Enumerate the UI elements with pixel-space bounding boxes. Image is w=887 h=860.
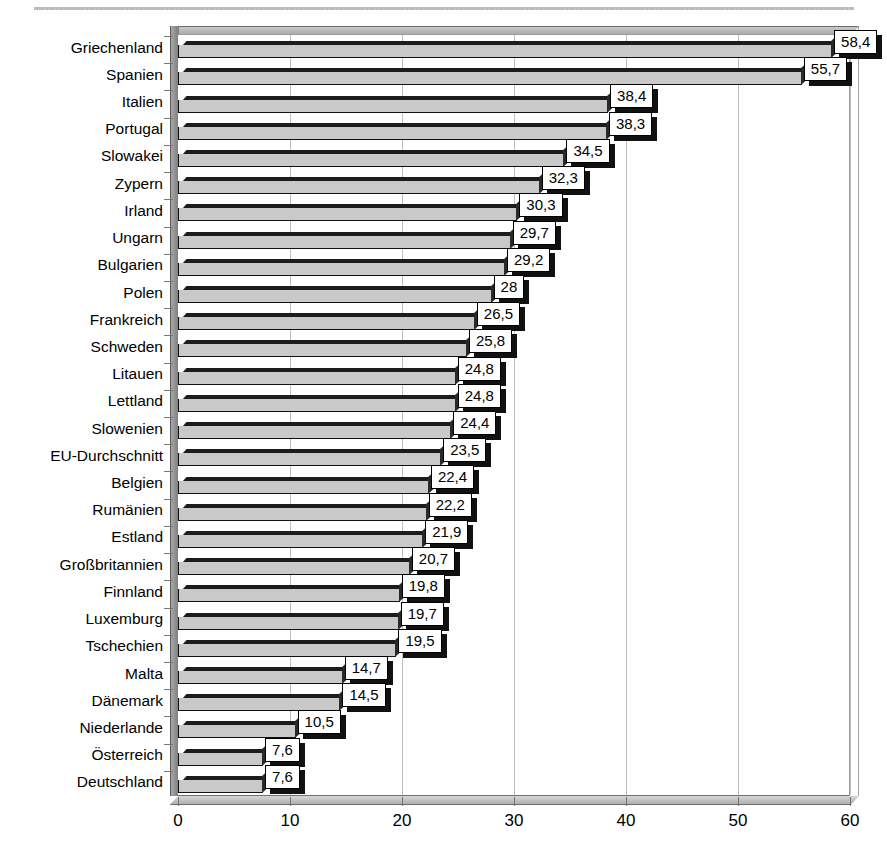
x-tick-50 bbox=[738, 797, 739, 806]
value-label: 23,5 bbox=[443, 438, 486, 462]
value-label: 7,6 bbox=[265, 738, 300, 762]
value-label: 19,8 bbox=[402, 574, 445, 598]
x-tick-label: 40 bbox=[617, 812, 636, 829]
x-tick-label: 0 bbox=[173, 812, 182, 829]
x-tick-label: 50 bbox=[729, 812, 748, 829]
x-axis: 0102030405060 bbox=[0, 0, 887, 860]
x-tick-30 bbox=[514, 797, 515, 806]
value-label: 24,8 bbox=[458, 384, 501, 408]
value-label: 7,6 bbox=[265, 765, 300, 789]
x-tick-label: 20 bbox=[393, 812, 412, 829]
x-tick-60 bbox=[850, 797, 851, 806]
value-label: 55,7 bbox=[804, 57, 847, 81]
value-label: 25,8 bbox=[469, 329, 512, 353]
value-label: 34,5 bbox=[566, 139, 609, 163]
value-label: 19,5 bbox=[398, 629, 441, 653]
value-label: 38,3 bbox=[609, 112, 652, 136]
bar-chart: GriechenlandSpanienItalienPortugalSlowak… bbox=[0, 0, 887, 860]
value-label: 10,5 bbox=[298, 710, 341, 734]
value-label: 28 bbox=[494, 275, 525, 299]
value-label: 19,7 bbox=[401, 602, 444, 626]
value-label: 30,3 bbox=[519, 193, 562, 217]
value-label: 38,4 bbox=[610, 84, 653, 108]
value-label: 32,3 bbox=[542, 166, 585, 190]
page-root: GriechenlandSpanienItalienPortugalSlowak… bbox=[0, 0, 887, 860]
x-tick-label: 10 bbox=[281, 812, 300, 829]
value-label: 26,5 bbox=[477, 302, 520, 326]
x-tick-20 bbox=[402, 797, 403, 806]
x-tick-label: 60 bbox=[841, 812, 860, 829]
x-tick-40 bbox=[626, 797, 627, 806]
value-label: 14,5 bbox=[342, 683, 385, 707]
x-tick-10 bbox=[290, 797, 291, 806]
value-label: 14,7 bbox=[345, 656, 388, 680]
x-tick-0 bbox=[178, 797, 179, 806]
value-label: 24,4 bbox=[453, 411, 496, 435]
value-label: 20,7 bbox=[412, 547, 455, 571]
value-label: 58,4 bbox=[834, 30, 877, 54]
value-label: 29,2 bbox=[507, 248, 550, 272]
value-label: 24,8 bbox=[458, 357, 501, 381]
value-label: 22,2 bbox=[429, 493, 472, 517]
value-label: 21,9 bbox=[425, 520, 468, 544]
value-label: 29,7 bbox=[513, 221, 556, 245]
x-tick-label: 30 bbox=[505, 812, 524, 829]
value-label: 22,4 bbox=[431, 465, 474, 489]
